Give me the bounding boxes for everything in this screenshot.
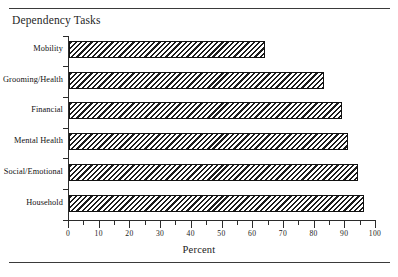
x-axis-tick-label: 20 <box>125 229 133 238</box>
bar-category-label: Mobility <box>33 44 63 53</box>
bar <box>69 195 364 212</box>
bar-category-label: Social/Emotional <box>4 167 63 176</box>
y-axis-tick <box>63 128 68 129</box>
bar <box>69 164 358 181</box>
bar-row: Social/Emotional <box>0 159 398 189</box>
bar-category-label: Financial <box>31 105 63 114</box>
bar-row: Financial <box>0 97 398 127</box>
x-axis-tick-major <box>344 221 345 228</box>
plot-area: MobilityGrooming/HealthFinancialMental H… <box>0 0 398 277</box>
x-axis-tick-minor <box>206 221 207 225</box>
x-axis-tick-major <box>129 221 130 228</box>
x-axis-title: Percent <box>0 244 398 255</box>
bar-row: Mental Health <box>0 128 398 158</box>
chart-figure: Dependency Tasks MobilityGrooming/Health… <box>0 0 398 277</box>
bar <box>69 41 265 58</box>
bar-row: Household <box>0 190 398 220</box>
x-axis-tick-major <box>252 221 253 228</box>
x-axis-tick-minor <box>83 221 84 225</box>
x-axis-tick-minor <box>329 221 330 225</box>
y-axis-tick <box>63 97 68 98</box>
x-axis-tick-minor <box>145 221 146 225</box>
x-axis-tick-major <box>68 221 69 228</box>
y-axis-tick <box>63 158 68 159</box>
x-axis-tick-label: 90 <box>340 229 348 238</box>
bar-row: Mobility <box>0 36 398 66</box>
y-axis-tick <box>63 189 68 190</box>
x-axis-tick-major <box>99 221 100 228</box>
x-axis-tick-major <box>314 221 315 228</box>
x-axis-tick-minor <box>268 221 269 225</box>
bar-row: Grooming/Health <box>0 67 398 97</box>
bar-category-label: Mental Health <box>14 136 63 145</box>
x-axis-tick-label: 0 <box>66 229 70 238</box>
x-axis-tick-label: 60 <box>248 229 256 238</box>
x-axis-tick-minor <box>360 221 361 225</box>
bar-category-label: Grooming/Health <box>3 75 63 84</box>
bar <box>69 133 348 150</box>
x-axis-tick-minor <box>114 221 115 225</box>
x-axis-tick-label: 10 <box>94 229 102 238</box>
x-axis-tick-label: 50 <box>217 229 225 238</box>
y-axis-tick <box>63 66 68 67</box>
x-axis-tick-major <box>375 221 376 228</box>
x-axis-tick-minor <box>175 221 176 225</box>
x-axis-tick-minor <box>237 221 238 225</box>
x-axis-tick-label: 80 <box>309 229 317 238</box>
x-axis-tick-major <box>191 221 192 228</box>
bar-category-label: Household <box>26 198 63 207</box>
x-axis-tick-label: 100 <box>369 229 382 238</box>
x-axis-tick-major <box>160 221 161 228</box>
x-axis-tick-label: 70 <box>279 229 287 238</box>
x-axis-tick-label: 30 <box>156 229 164 238</box>
x-axis-tick-major <box>222 221 223 228</box>
y-axis-tick <box>63 36 68 37</box>
x-axis-tick-label: 40 <box>187 229 195 238</box>
x-axis-tick-minor <box>298 221 299 225</box>
bar <box>69 102 342 119</box>
bar <box>69 72 324 89</box>
x-axis-tick-major <box>283 221 284 228</box>
